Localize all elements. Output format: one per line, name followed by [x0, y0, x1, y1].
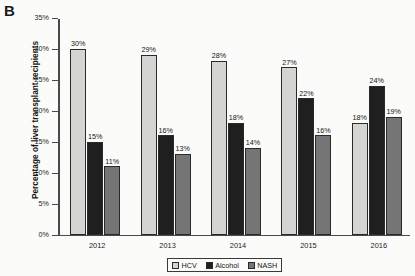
bar-value-label: 30% — [71, 39, 85, 48]
y-tick: 0% — [52, 235, 58, 236]
bar-value-label: 16% — [316, 126, 330, 135]
bar-hcv-2013: 29% — [141, 55, 157, 235]
y-tick-label: 10% — [35, 168, 49, 177]
bar-value-label: 15% — [88, 132, 102, 141]
y-tick-label: 25% — [35, 75, 49, 84]
y-tick: 30% — [52, 49, 58, 50]
y-tick: 10% — [52, 173, 58, 174]
y-tick: 20% — [52, 111, 58, 112]
bar-group-2016: 18%24%19%2016 — [352, 18, 406, 235]
legend-item-alcohol[interactable]: Alcohol — [206, 261, 239, 270]
bar-alcohol-2013: 16% — [158, 135, 174, 234]
bar-nash-2016: 19% — [386, 117, 402, 235]
x-axis-line — [58, 235, 410, 237]
bar-nash-2012: 11% — [104, 166, 120, 234]
x-tick-label-2015: 2015 — [281, 241, 335, 250]
legend-item-nash[interactable]: NASH — [248, 261, 277, 270]
y-tick-label: 5% — [39, 199, 49, 208]
bar-group-2015: 27%22%16%2015 — [281, 18, 335, 235]
bar-value-label: 27% — [282, 58, 296, 67]
y-tick: 5% — [52, 204, 58, 205]
bar-hcv-2015: 27% — [281, 67, 297, 234]
y-tick-label: 20% — [35, 106, 49, 115]
y-tick: 25% — [52, 80, 58, 81]
bar-hcv-2012: 30% — [70, 49, 86, 235]
plot-area: 0%5%10%15%20%25%30%35% 30%15%11%201229%1… — [58, 19, 410, 236]
legend-swatch-icon — [248, 262, 255, 269]
bar-alcohol-2016: 24% — [369, 86, 385, 235]
legend-swatch-icon — [172, 262, 179, 269]
legend-label: Alcohol — [215, 261, 239, 270]
legend-label: HCV — [182, 261, 197, 270]
legend-label: NASH — [257, 261, 277, 270]
y-tick-label: 0% — [39, 230, 49, 239]
x-tick-label-2016: 2016 — [352, 241, 406, 250]
y-tick: 35% — [52, 18, 58, 19]
bar-value-label: 28% — [212, 51, 226, 60]
bar-group-2013: 29%16%13%2013 — [141, 18, 195, 235]
bar-value-label: 18% — [353, 113, 367, 122]
bar-group-2012: 30%15%11%2012 — [70, 18, 124, 235]
panel-label: B — [4, 2, 15, 19]
bar-hcv-2014: 28% — [211, 61, 227, 235]
y-tick-label: 15% — [35, 137, 49, 146]
bar-alcohol-2015: 22% — [298, 98, 314, 234]
legend-swatch-icon — [206, 262, 213, 269]
x-tick-label-2012: 2012 — [70, 241, 124, 250]
bar-value-label: 11% — [105, 157, 119, 166]
bar-alcohol-2012: 15% — [87, 142, 103, 235]
bar-value-label: 13% — [175, 144, 189, 153]
bar-value-label: 16% — [158, 126, 172, 135]
legend-item-hcv[interactable]: HCV — [172, 261, 197, 270]
bar-nash-2015: 16% — [315, 135, 331, 234]
bar-value-label: 22% — [299, 89, 313, 98]
y-tick-label: 30% — [35, 44, 49, 53]
chart-legend: HCVAlcoholNASH — [167, 258, 282, 272]
chart-screenshot: B Percentage of liver transplant recipie… — [0, 0, 415, 276]
bar-alcohol-2014: 18% — [228, 123, 244, 235]
y-tick: 15% — [52, 142, 58, 143]
y-axis-line — [58, 19, 60, 236]
bar-hcv-2016: 18% — [352, 123, 368, 235]
bar-value-label: 14% — [246, 138, 260, 147]
bar-value-label: 24% — [370, 76, 384, 85]
bar-nash-2014: 14% — [245, 148, 261, 235]
bar-value-label: 19% — [387, 107, 401, 116]
bar-nash-2013: 13% — [175, 154, 191, 235]
bar-value-label: 18% — [229, 113, 243, 122]
x-tick-label-2014: 2014 — [211, 241, 265, 250]
bar-group-2014: 28%18%14%2014 — [211, 18, 265, 235]
bar-value-label: 29% — [141, 45, 155, 54]
y-tick-label: 35% — [35, 13, 49, 22]
x-tick-label-2013: 2013 — [141, 241, 195, 250]
